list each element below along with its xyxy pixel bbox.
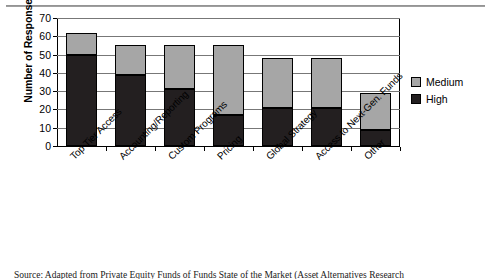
y-axis-tick-label: 10 <box>39 122 51 134</box>
figure-container: Number of Responses 010203040506070 Top … <box>0 0 491 279</box>
legend-label-high: High <box>426 93 448 105</box>
chart-area: Number of Responses 010203040506070 Top … <box>0 14 491 254</box>
y-axis-tick-label: 70 <box>39 12 51 24</box>
bar-segment-medium <box>262 58 293 107</box>
y-axis-tick-label: 30 <box>39 85 51 97</box>
y-axis-tick-label: 50 <box>39 49 51 61</box>
chart-legend: Medium High <box>411 73 463 107</box>
y-axis-tick-mark <box>53 146 57 147</box>
y-axis-tick-label: 0 <box>45 140 51 152</box>
y-axis-title: Number of Responses <box>22 0 34 118</box>
y-axis-tick-label: 20 <box>39 103 51 115</box>
legend-swatch-medium-icon <box>411 77 421 87</box>
y-axis-tick-label: 40 <box>39 67 51 79</box>
bar-segment-medium <box>311 58 342 107</box>
y-axis-tick-label: 60 <box>39 30 51 42</box>
bar-segment-medium <box>66 33 97 55</box>
x-axis-labels-group: Top Tier AccessAccounting/ReportingCusto… <box>57 150 417 260</box>
top-divider-rule <box>6 5 485 7</box>
legend-label-medium: Medium <box>426 76 463 88</box>
bar-segment-medium <box>164 45 195 89</box>
legend-swatch-high-icon <box>411 94 421 104</box>
legend-item-high: High <box>411 90 463 107</box>
bar <box>213 45 244 146</box>
bar-segment-medium <box>115 45 146 74</box>
legend-item-medium: Medium <box>411 73 463 90</box>
figure-caption: Source: Adapted from Private Equity Fund… <box>14 270 484 279</box>
